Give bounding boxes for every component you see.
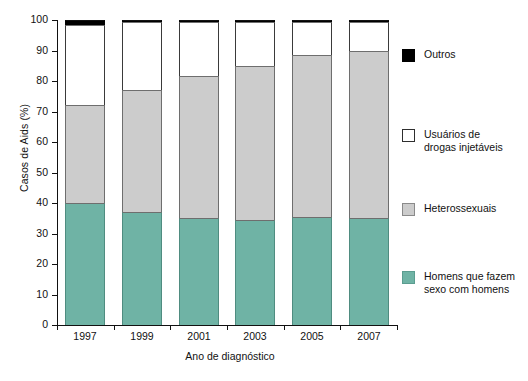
y-tick-label-10: 10 xyxy=(36,288,48,300)
bar-2005[interactable] xyxy=(292,20,332,325)
bar-2001[interactable] xyxy=(179,20,219,325)
bar-segment-udi-1997[interactable] xyxy=(65,25,105,106)
x-tick-label-2001: 2001 xyxy=(169,330,229,342)
bar-segment-outros-2005[interactable] xyxy=(292,20,332,22)
y-tick-50: 50 xyxy=(52,173,57,174)
legend-item-hetero[interactable]: Heterossexuais xyxy=(402,202,496,216)
y-tick-label-70: 70 xyxy=(36,105,48,117)
bar-segment-msm-2001[interactable] xyxy=(179,218,219,325)
plot-inner: 0102030405060708090100 19971999200120032… xyxy=(57,20,397,325)
x-tick-label-2003: 2003 xyxy=(225,330,285,342)
y-axis-line xyxy=(57,20,58,325)
y-tick-40: 40 xyxy=(52,203,57,204)
bar-1997[interactable] xyxy=(65,20,105,325)
y-tick-label-0: 0 xyxy=(42,318,48,330)
legend-item-udi[interactable]: Usuários de drogas injetáveis xyxy=(402,128,503,153)
y-tick-90: 90 xyxy=(52,51,57,52)
bar-segment-udi-1999[interactable] xyxy=(122,22,162,91)
bar-segment-outros-2001[interactable] xyxy=(179,20,219,22)
bar-segment-hetero-1997[interactable] xyxy=(65,105,105,203)
chart-legend: OutrosUsuários de drogas injetáveisHeter… xyxy=(402,20,528,310)
bar-segment-udi-2003[interactable] xyxy=(235,22,275,66)
bar-segment-outros-1999[interactable] xyxy=(122,20,162,22)
y-tick-label-30: 30 xyxy=(36,227,48,239)
legend-swatch-msm-icon xyxy=(402,271,415,284)
bar-1999[interactable] xyxy=(122,20,162,325)
legend-label-udi: Usuários de drogas injetáveis xyxy=(424,128,503,153)
stacked-bar-chart-figure: Casos de Aids (%) Ano de diagnóstico 010… xyxy=(0,0,528,381)
bar-segment-msm-2003[interactable] xyxy=(235,220,275,325)
y-tick-70: 70 xyxy=(52,112,57,113)
bar-segment-hetero-1999[interactable] xyxy=(122,90,162,212)
x-axis-title: Ano de diagnóstico xyxy=(60,350,400,362)
bar-segment-hetero-2003[interactable] xyxy=(235,66,275,220)
bar-segment-udi-2007[interactable] xyxy=(349,22,389,51)
bar-segment-outros-2007[interactable] xyxy=(349,20,389,22)
legend-item-msm[interactable]: Homens que fazem sexo com homens xyxy=(402,270,515,295)
bar-segment-udi-2001[interactable] xyxy=(179,22,219,77)
y-tick-label-50: 50 xyxy=(36,166,48,178)
y-tick-label-60: 60 xyxy=(36,135,48,147)
legend-label-outros: Outros xyxy=(424,48,456,61)
y-tick-10: 10 xyxy=(52,295,57,296)
bar-segment-msm-2005[interactable] xyxy=(292,217,332,325)
y-tick-label-20: 20 xyxy=(36,257,48,269)
x-tick-label-1997: 1997 xyxy=(55,330,115,342)
bar-segment-hetero-2001[interactable] xyxy=(179,76,219,218)
y-tick-label-40: 40 xyxy=(36,196,48,208)
y-tick-100: 100 xyxy=(52,20,57,21)
legend-swatch-outros-icon xyxy=(402,49,415,62)
x-tick-label-2007: 2007 xyxy=(339,330,399,342)
y-tick-20: 20 xyxy=(52,264,57,265)
y-tick-60: 60 xyxy=(52,142,57,143)
bar-2003[interactable] xyxy=(235,20,275,325)
legend-swatch-hetero-icon xyxy=(402,203,415,216)
y-tick-label-90: 90 xyxy=(36,44,48,56)
x-tick-label-2005: 2005 xyxy=(282,330,342,342)
bar-segment-msm-2007[interactable] xyxy=(349,218,389,325)
y-tick-label-100: 100 xyxy=(30,13,48,25)
y-tick-80: 80 xyxy=(52,81,57,82)
bar-segment-outros-1997[interactable] xyxy=(65,20,105,25)
x-tick-label-1999: 1999 xyxy=(112,330,172,342)
y-tick-30: 30 xyxy=(52,234,57,235)
bar-segment-msm-1999[interactable] xyxy=(122,212,162,325)
legend-swatch-udi-icon xyxy=(402,129,415,142)
legend-label-msm: Homens que fazem sexo com homens xyxy=(424,270,515,295)
bar-segment-udi-2005[interactable] xyxy=(292,22,332,56)
bar-segment-hetero-2007[interactable] xyxy=(349,51,389,219)
bar-segment-msm-1997[interactable] xyxy=(65,203,105,325)
y-axis-title: Casos de Aids (%) xyxy=(18,78,30,218)
plot-area: 0102030405060708090100 19971999200120032… xyxy=(57,20,397,325)
bar-2007[interactable] xyxy=(349,20,389,325)
y-tick-label-80: 80 xyxy=(36,74,48,86)
bar-segment-hetero-2005[interactable] xyxy=(292,55,332,217)
bar-segment-outros-2003[interactable] xyxy=(235,20,275,22)
legend-label-hetero: Heterossexuais xyxy=(424,202,496,215)
legend-item-outros[interactable]: Outros xyxy=(402,48,456,62)
